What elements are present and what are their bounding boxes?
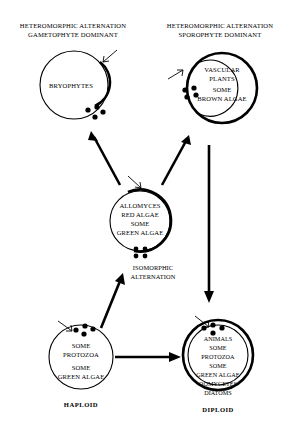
arrowhead-diploid-vertical: [204, 291, 214, 303]
isomorphic-label-2: SOME: [131, 220, 150, 227]
bryophytes-label-0: BRYOPHYTES: [49, 82, 93, 89]
arrow-vascular-to-diploid: [204, 145, 214, 303]
vascular-label-0: VASCULAR: [204, 66, 240, 73]
diploid-dots: [201, 322, 224, 335]
isomorphic-caption-line1: ISOMORPHIC: [133, 264, 173, 271]
diploid-label-1: SOME: [209, 344, 227, 351]
header-left: HETEROMORPHIC ALTERNATION GAMETOPHYTE DO…: [20, 22, 126, 38]
isomorphic-label-0: ALLOMYCES: [119, 202, 160, 209]
diagram-canvas: HETEROMORPHIC ALTERNATION GAMETOPHYTE DO…: [0, 0, 294, 424]
header-left-line1: HETEROMORPHIC ALTERNATION: [20, 22, 126, 29]
life-cycle-diagram: HETEROMORPHIC ALTERNATION GAMETOPHYTE DO…: [0, 0, 294, 424]
haploid-label-0: SOME: [72, 342, 91, 349]
haploid-label-1: PROTOZOA: [63, 351, 99, 358]
arrowhead-diploid-horizontal: [169, 352, 181, 362]
bryophytes-cycle: BRYOPHYTES: [40, 50, 117, 120]
arrow-haploid-to-diploid: [115, 352, 181, 362]
vascular-label-2: SOME: [213, 86, 232, 93]
diploid-cycle: ANIMALS SOME PROTOZOA SOME GREEN ALGAE O…: [183, 316, 253, 413]
vascular-label-3: BROWN ALGAE: [197, 95, 246, 102]
arrowhead-vascular: [181, 135, 191, 145]
diploid-label-6: DIATOMS: [204, 389, 232, 396]
haploid-ploidy-label: HAPLOID: [64, 401, 98, 408]
diploid-label-5: OOMYCETES: [199, 380, 238, 387]
haploid-label-3: SOME: [72, 364, 91, 371]
arrow-haploid-to-isomorphic: [101, 273, 125, 328]
diploid-label-4: GREEN ALGAE: [196, 371, 240, 378]
vascular-meiosis-arrow: [168, 70, 183, 79]
header-right-line2: SPOROPHYTE DOMINANT: [179, 31, 262, 38]
header-right-line1: HETEROMORPHIC ALTERNATION: [167, 22, 273, 29]
vascular-dots: [182, 85, 198, 99]
diploid-ploidy-label: DIPLOID: [202, 406, 234, 413]
isomorphic-label-1: RED ALGAE: [121, 211, 159, 218]
diploid-label-0: ANIMALS: [204, 335, 233, 342]
diploid-label-2: PROTOZOA: [201, 353, 235, 360]
isomorphic-label-3: GREEN ALGAE: [117, 229, 164, 236]
isomorphic-meiosis-arrow: [128, 176, 141, 188]
isomorphic-caption-line2: ALTERNATION: [131, 273, 176, 280]
arrowhead-bryophytes: [88, 131, 98, 141]
haploid-cycle: SOME PROTOZOA SOME GREEN ALGAE HAPLOID: [49, 321, 113, 408]
arrow-isomorphic-to-bryophytes: [88, 131, 120, 185]
haploid-label-4: GREEN ALGAE: [58, 373, 105, 380]
vascular-plants-cycle: VASCULAR PLANTS SOME BROWN ALGAE: [168, 53, 257, 123]
header-left-line2: GAMETOPHYTE DOMINANT: [28, 31, 118, 38]
diploid-label-3: SOME: [209, 362, 227, 369]
vascular-label-1: PLANTS: [209, 75, 235, 82]
header-right: HETEROMORPHIC ALTERNATION SPOROPHYTE DOM…: [167, 22, 273, 38]
isomorphic-cycle: ALLOMYCES RED ALGAE SOME GREEN ALGAE ISO…: [110, 176, 176, 280]
bryophytes-meiosis-arrow: [103, 50, 117, 62]
arrow-isomorphic-to-vascular: [162, 135, 191, 185]
